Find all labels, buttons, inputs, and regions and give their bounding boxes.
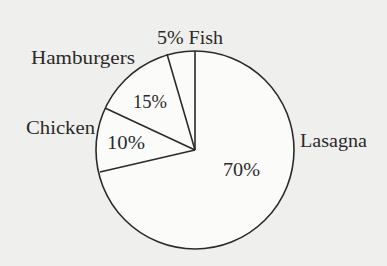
- label-chicken: Chicken: [26, 118, 95, 138]
- label-lasagna: Lasagna: [300, 131, 367, 151]
- pct-chicken: 10%: [107, 133, 145, 153]
- pie-chart-svg: 5% Fish Hamburgers Chicken Lasagna 15% 1…: [0, 0, 387, 266]
- pct-lasagna: 70%: [223, 160, 260, 180]
- pie-chart: 5% Fish Hamburgers Chicken Lasagna 15% 1…: [0, 0, 387, 266]
- label-hamburgers: Hamburgers: [31, 48, 135, 68]
- pct-hamburgers: 15%: [133, 92, 167, 112]
- label-fish: 5% Fish: [157, 28, 223, 48]
